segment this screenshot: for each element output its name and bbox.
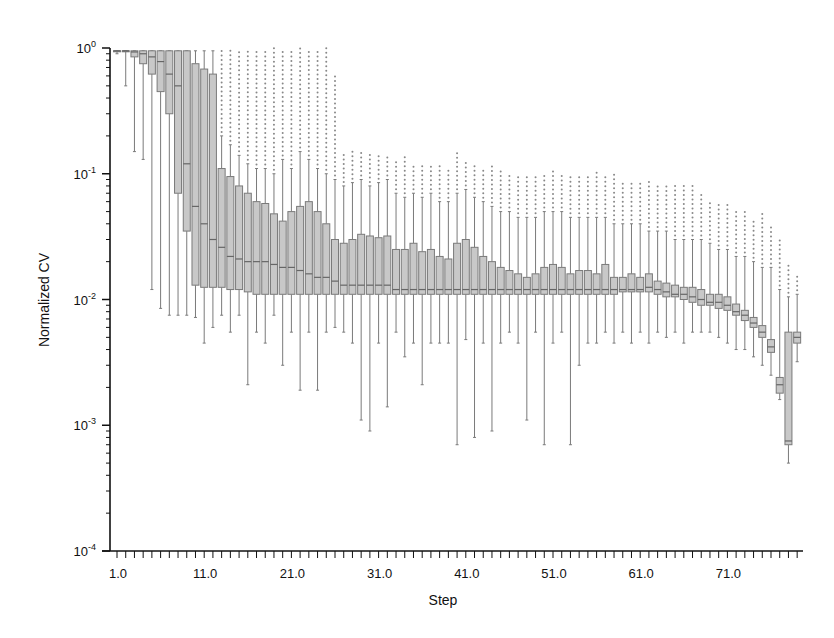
box-step-52 [558,175,565,332]
box-step-30 [366,154,373,431]
box-step-54 [576,176,583,365]
box-step-34 [401,156,408,357]
box-step-32 [384,157,391,407]
box-step-18 [262,51,269,343]
box-step-14 [227,50,234,332]
box-step-28 [349,151,356,343]
box-step-29 [358,152,365,420]
box-step-15 [236,51,243,315]
box-step-79 [794,276,801,362]
box-step-59 [619,183,626,332]
box-step-65 [672,185,679,332]
box-step-62 [645,181,652,343]
box-step-67 [689,185,696,332]
box-step-58 [611,174,618,343]
box-step-68 [698,194,705,332]
box-step-17 [253,51,260,332]
box-step-57 [602,176,609,332]
box-step-50 [541,175,548,445]
box-step-37 [427,166,434,343]
box-step-23 [305,51,312,332]
box-step-2 [122,51,129,86]
box-step-60 [628,183,635,343]
box-step-10 [192,51,199,318]
box-step-27 [340,154,347,332]
box-step-5 [148,51,155,290]
box-step-69 [706,202,713,332]
box-step-47 [515,176,522,343]
x-tick-label: 31.0 [367,566,392,581]
x-tick-label: 11.0 [193,566,217,581]
box-step-33 [393,161,400,332]
box-step-16 [244,51,251,385]
box-step-6 [157,51,164,309]
box-step-43 [480,170,487,343]
box-step-71 [724,204,731,343]
box-step-40 [454,152,461,445]
x-tick-label: 1.0 [109,566,127,581]
box-step-42 [471,165,478,437]
box-step-63 [654,186,661,333]
box-step-1 [114,51,121,54]
box-step-56 [593,172,600,343]
box-step-45 [497,171,504,344]
box-step-61 [637,183,644,332]
box-step-36 [419,165,426,384]
box-step-24 [314,51,321,390]
box-step-11 [201,51,208,343]
y-axis-label: Normalized CV [36,253,52,347]
box-step-49 [532,176,539,332]
box-step-66 [680,185,687,343]
box-step-26 [332,76,339,328]
x-tick-label: 51.0 [541,566,566,581]
box-step-64 [663,186,670,338]
box-step-76 [768,226,775,375]
box-step-70 [715,204,722,337]
box-step-46 [506,175,513,332]
box-step-13 [218,50,225,315]
box-step-53 [567,176,574,444]
box-step-41 [462,162,469,340]
box-step-8 [175,51,182,315]
box-step-48 [523,176,530,420]
y-tick-label: 100 [77,39,96,56]
box-step-77 [776,240,783,400]
box-step-39 [445,170,452,343]
x-tick-label: 41.0 [454,566,479,581]
y-tick-label: 10-2 [74,291,96,308]
box-step-21 [288,51,295,332]
box-step-55 [584,176,591,343]
box-step-73 [741,211,748,350]
box-step-31 [375,155,382,343]
box-step-38 [436,165,443,343]
box-step-51 [550,171,557,344]
box-step-25 [323,47,330,332]
x-axis-label: Step [429,592,458,608]
box-step-74 [750,221,757,357]
box-step-9 [183,51,190,315]
y-tick-label: 10-3 [74,416,96,433]
box-step-4 [140,51,147,160]
x-tick-label: 61.0 [629,566,654,581]
y-tick-label: 10-1 [74,165,96,182]
box-step-22 [297,48,304,391]
box-step-12 [209,51,216,328]
box-step-7 [166,51,173,315]
box-step-78 [785,265,792,463]
box-step-44 [488,165,495,431]
box-step-72 [733,211,740,350]
box-step-19 [270,47,277,315]
x-tick-label: 21.0 [280,566,305,581]
box-step-20 [279,51,286,365]
x-tick-label: 71.0 [716,566,741,581]
plot-area [114,47,801,463]
box-step-35 [410,166,417,343]
y-tick-label: 10-4 [74,542,96,559]
box-step-75 [759,213,766,365]
box-plot-chart: 10010-110-210-310-41.011.021.031.041.051… [0,0,834,638]
box-step-3 [131,51,138,152]
